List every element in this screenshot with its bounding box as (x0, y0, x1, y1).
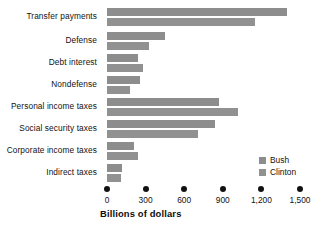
bar (107, 32, 165, 40)
bar-group (107, 32, 307, 50)
legend-label: Clinton (270, 168, 296, 177)
bar-group (107, 98, 307, 116)
bar (107, 54, 138, 62)
axis-tick-dot (258, 186, 264, 192)
category-label: Defense (0, 36, 97, 45)
legend-swatch-icon (259, 157, 266, 164)
axis-tick-dot (104, 186, 110, 192)
legend-item: Bush (259, 155, 329, 166)
category-axis-labels: Transfer paymentsDefenseDebt interestNon… (0, 8, 101, 184)
axis-title: Billions of dollars (100, 208, 182, 219)
bar (107, 8, 287, 16)
bar (107, 142, 134, 150)
axis-tick-dot (297, 186, 303, 192)
bar (107, 108, 238, 116)
legend: BushClinton (259, 155, 329, 179)
bar (107, 18, 255, 26)
category-label: Social security taxes (0, 124, 97, 133)
bar-group (107, 8, 307, 26)
bar (107, 98, 219, 106)
category-label: Indirect taxes (0, 168, 97, 177)
bar-chart: Transfer paymentsDefenseDebt interestNon… (0, 0, 330, 231)
bar (107, 86, 130, 94)
legend-item: Clinton (259, 167, 329, 178)
bar (107, 164, 122, 172)
category-label: Transfer payments (0, 12, 97, 21)
axis-tick-dot (220, 186, 226, 192)
axis-tick-label: 1,500 (270, 195, 330, 205)
axis-tick-dot (143, 186, 149, 192)
bar-group (107, 54, 307, 72)
bar (107, 120, 215, 128)
bar-group (107, 76, 307, 94)
bar (107, 64, 143, 72)
category-label: Corporate income taxes (0, 146, 97, 155)
bar (107, 42, 149, 50)
category-label: Nondefense (0, 80, 97, 89)
bar (107, 76, 140, 84)
value-axis: Billions of dollars 03006009001,2001,500 (0, 186, 330, 231)
bar (107, 152, 138, 160)
category-label: Debt interest (0, 58, 97, 67)
axis-tick-dot (181, 186, 187, 192)
category-label: Personal income taxes (0, 102, 97, 111)
bar-group (107, 120, 307, 138)
bar (107, 130, 198, 138)
legend-swatch-icon (259, 169, 266, 176)
bar (107, 174, 121, 182)
legend-label: Bush (270, 156, 289, 165)
